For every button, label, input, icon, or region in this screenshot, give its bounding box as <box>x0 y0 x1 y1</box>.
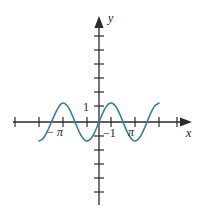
x-tick-label-pi: π <box>128 126 134 138</box>
x-tick-label-negative-pi: − π <box>46 126 63 138</box>
plot-canvas <box>0 0 206 216</box>
y-axis-label: y <box>108 12 113 24</box>
sine-graph-figure: y x − π π 1 −1 <box>0 0 206 216</box>
y-tick-label-negative-one: −1 <box>103 127 116 139</box>
y-axis-arrowhead <box>94 16 103 28</box>
y-tick-label-one: 1 <box>83 101 89 113</box>
x-axis-label: x <box>186 127 191 139</box>
